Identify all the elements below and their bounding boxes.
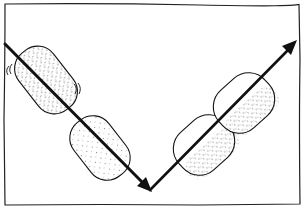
incoming-arrow: [5, 44, 146, 186]
capsule-1: [6, 38, 85, 122]
capsule-2: [62, 108, 139, 189]
bounce-diagram: [0, 0, 304, 209]
diagram-canvas: [0, 0, 304, 209]
outgoing-arrow: [150, 48, 290, 190]
